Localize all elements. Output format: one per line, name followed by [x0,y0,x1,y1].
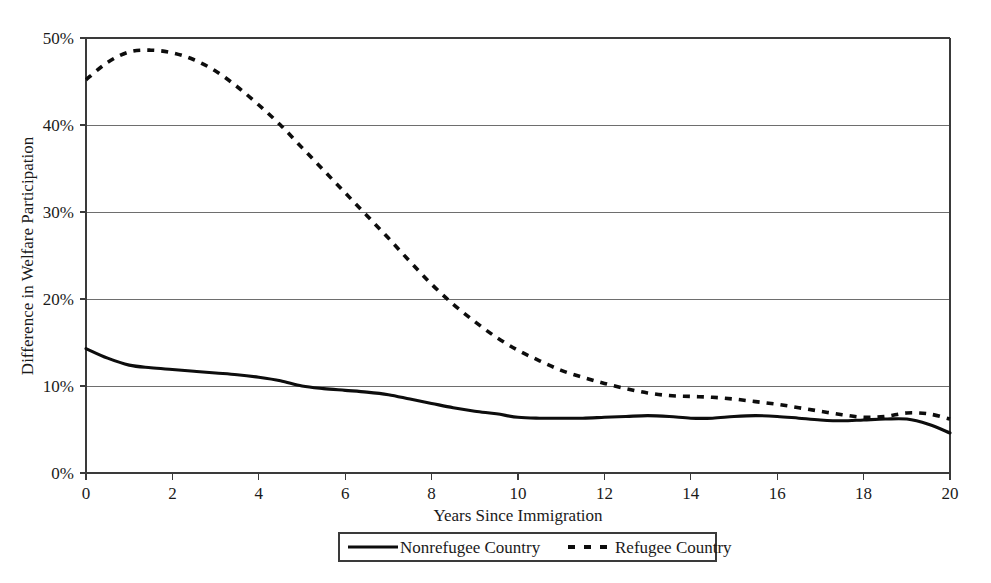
y-axis-title: Difference in Welfare Participation [18,136,37,375]
x-tick-label-10: 10 [510,484,527,503]
x-tick-label-16: 16 [769,484,786,503]
legend-label-nonrefugee-country: Nonrefugee Country [400,538,541,557]
chart-figure: 50% 40% 30% 20% 10% 0% 0 2 4 6 [0,0,991,583]
legend-label-refugee-country: Refugee Country [615,538,732,557]
x-tick-label-12: 12 [596,484,613,503]
x-tick-label-4: 4 [255,484,264,503]
y-tick-marks [80,38,86,473]
x-tick-marks [86,473,950,480]
y-tick-labels: 50% 40% 30% 20% 10% 0% [43,29,74,483]
x-tick-label-20: 20 [942,484,959,503]
y-tick-label-0: 0% [51,464,74,483]
y-tick-label-10: 10% [43,377,74,396]
chart-svg: 50% 40% 30% 20% 10% 0% 0 2 4 6 [0,0,991,583]
y-tick-label-30: 30% [43,203,74,222]
x-tick-label-2: 2 [168,484,177,503]
x-tick-label-8: 8 [427,484,436,503]
x-axis-title: Years Since Immigration [433,506,603,525]
y-tick-label-20: 20% [43,290,74,309]
y-tick-label-50: 50% [43,29,74,48]
y-tick-label-40: 40% [43,116,74,135]
plot-area-background [86,38,950,473]
x-tick-label-18: 18 [855,484,872,503]
chart-legend: Nonrefugee Country Refugee Country [339,533,732,561]
x-tick-labels: 0 2 4 6 8 10 12 14 16 18 20 [82,484,959,503]
x-tick-label-6: 6 [341,484,350,503]
x-tick-label-14: 14 [682,484,700,503]
x-tick-label-0: 0 [82,484,91,503]
